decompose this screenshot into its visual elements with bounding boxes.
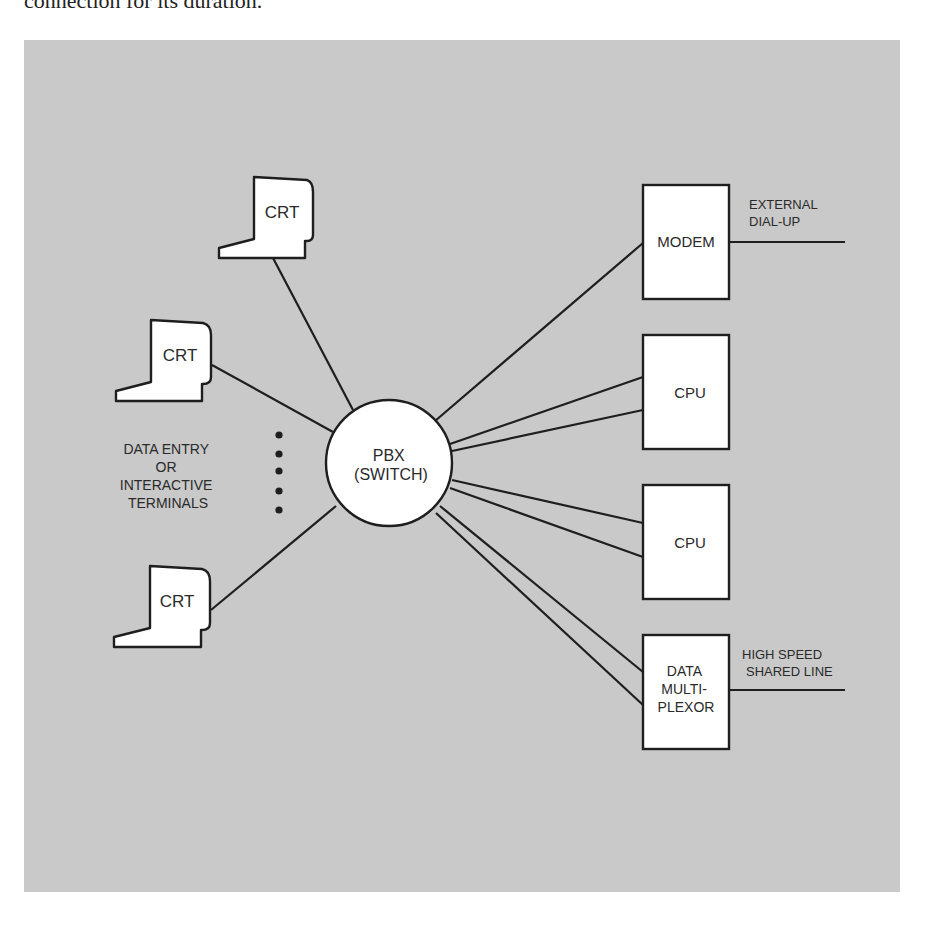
- crt-label: CRT: [265, 203, 300, 222]
- link-crt1-pbx: [273, 258, 353, 410]
- link-pbx-cpu1-a: [450, 377, 643, 444]
- terminal-group-label: DATA ENTRY OR INTERACTIVE TERMINALS: [120, 441, 216, 511]
- link-pbx-mux-b: [436, 513, 643, 705]
- modem-label: MODEM: [657, 233, 715, 250]
- link-pbx-modem: [435, 243, 643, 421]
- crt-label: CRT: [160, 592, 195, 611]
- connection-lines: [211, 242, 845, 705]
- link-pbx-mux-a: [440, 506, 643, 672]
- cpu-label: CPU: [674, 384, 706, 401]
- link-pbx-cpu1-b: [452, 410, 643, 451]
- link-crt3-pbx: [211, 506, 336, 610]
- external-dialup-label: EXTERNAL DIAL-UP: [749, 197, 821, 229]
- high-speed-line-label: HIGH SPEED SHARED LINE: [742, 647, 833, 679]
- link-crt2-pbx: [212, 365, 333, 432]
- network-diagram: CRT CRT CRT DATA ENTRY OR INTERACTIVE TE…: [0, 0, 946, 926]
- link-pbx-cpu2-a: [452, 480, 643, 523]
- more-terminals-dots: [275, 431, 282, 513]
- link-pbx-cpu2-b: [450, 488, 643, 557]
- crt-label: CRT: [163, 346, 198, 365]
- cpu-label: CPU: [674, 534, 706, 551]
